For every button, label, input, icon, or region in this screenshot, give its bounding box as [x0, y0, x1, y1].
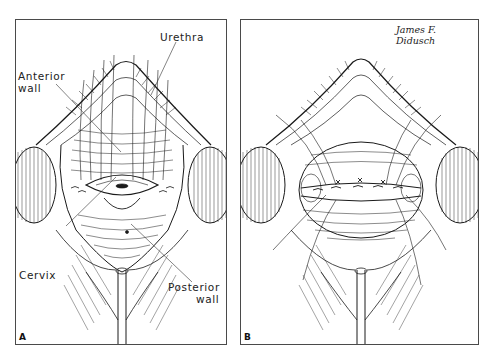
panel-letter-b: B: [244, 332, 251, 342]
label-anterior-wall-line1: Anterior: [18, 71, 65, 82]
panel-b: James F. Didusch B: [240, 19, 479, 345]
label-anterior-wall-line2: wall: [18, 83, 41, 94]
panel-letter-a: A: [19, 332, 26, 342]
surgical-illustration-b: [241, 20, 479, 345]
label-posterior-wall-line2: wall: [196, 294, 219, 305]
label-cervix: Cervix: [19, 270, 56, 281]
label-posterior-wall-line1: Posterior: [168, 282, 220, 293]
label-urethra: Urethra: [160, 32, 204, 43]
panel-a: Urethra Anterior wall Cervix Posterior w…: [15, 19, 227, 345]
artist-signature: James F. Didusch: [396, 24, 478, 46]
